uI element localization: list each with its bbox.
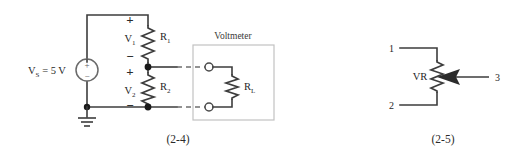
v1-minus-sign: −: [126, 49, 133, 64]
vr-terminal-3-label: 3: [495, 72, 500, 83]
vr-label: VR: [413, 71, 428, 82]
voltmeter-terminal-top: [205, 63, 213, 71]
junction-dot-bottom: [145, 104, 152, 111]
r2-label-r: R: [160, 81, 167, 92]
v1-label-sub: 1: [132, 39, 136, 47]
voltmeter-internal-wire-bottom: [213, 100, 232, 107]
v1-plus-sign: +: [126, 12, 133, 27]
resistor-r1-symbol: [142, 25, 154, 63]
source-label-value: = 5 V: [40, 65, 67, 76]
circuit-2-4-group: + − VS = 5 V R1 + V1 − R2 + V2 −: [28, 12, 274, 146]
resistor-r1-label: R1: [160, 31, 171, 45]
r1-label-sub: 1: [167, 37, 171, 45]
caption-2-5: (2-5): [432, 133, 455, 146]
r1-label-r: R: [160, 31, 167, 42]
caption-2-4: (2-4): [167, 133, 190, 146]
voltmeter-title: Voltmeter: [214, 31, 252, 41]
v1-label: V1: [124, 33, 136, 47]
v2-label: V2: [124, 85, 136, 99]
source-plus-sign: +: [84, 60, 89, 70]
vr-terminal-2-label: 2: [389, 100, 394, 111]
v2-plus-sign: +: [126, 64, 133, 79]
junction-dot-middle: [145, 64, 152, 71]
resistor-rl-label: RL: [244, 81, 255, 95]
vr-terminal1-wire: [400, 48, 437, 60]
top-wire: [87, 15, 148, 60]
figure-container: + − VS = 5 V R1 + V1 − R2 + V2 −: [0, 0, 513, 154]
v2-minus-sign: −: [126, 98, 133, 113]
rl-label-r: R: [244, 81, 251, 92]
source-label: VS = 5 V: [28, 65, 66, 79]
circuit-diagram-canvas: + − VS = 5 V R1 + V1 − R2 + V2 −: [0, 0, 513, 154]
resistor-r2-label: R2: [160, 81, 171, 95]
source-minus-sign: −: [84, 71, 89, 81]
vr-terminal-1-label: 1: [389, 43, 394, 54]
resistor-r2-symbol: [142, 72, 154, 107]
rl-label-sub: L: [251, 87, 255, 95]
resistor-rl-symbol: [226, 74, 238, 100]
r2-label-sub: 2: [167, 87, 171, 95]
vr-terminal2-wire: [400, 93, 437, 105]
voltmeter-internal-wire-top: [213, 67, 232, 74]
circuit-2-5-group: VR 1 2 3 (2-5): [389, 43, 500, 146]
voltmeter-terminal-bottom: [205, 103, 213, 111]
